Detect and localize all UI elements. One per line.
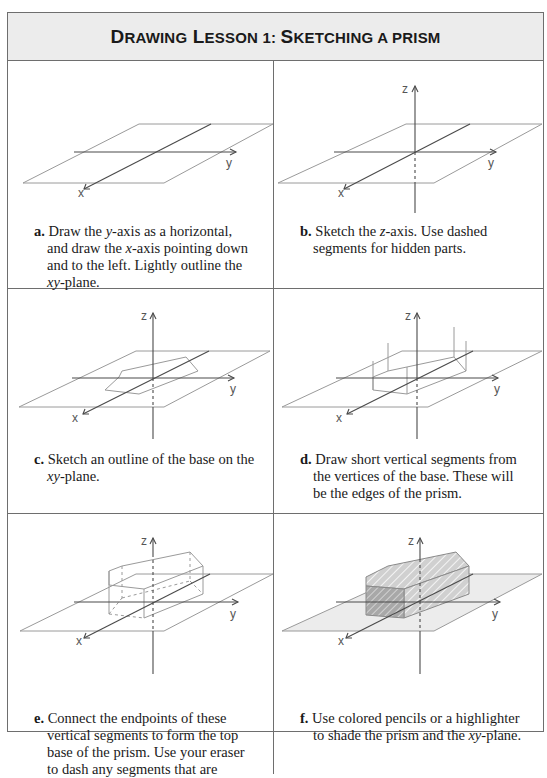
y-label: y: [488, 156, 494, 170]
steps-row-3: y x z e. Connect the endpoints of these …: [8, 514, 543, 774]
step-e-caption: e. Connect the endpoints of these vertic…: [34, 710, 255, 778]
y-label: y: [492, 607, 498, 621]
top-base-outline: [109, 552, 203, 589]
x-label: x: [336, 411, 342, 425]
base-outline: [373, 357, 466, 394]
x-label: x: [76, 634, 82, 648]
step-c-panel: y x z c. Sketch an outline of the base o…: [8, 289, 274, 513]
step-a-panel: y x a. Draw the y-axis as a horizontal, …: [8, 61, 274, 288]
z-label: z: [141, 534, 147, 548]
step-d-panel: y x z d. Draw short vertical segments fr…: [274, 289, 543, 513]
x-axis: [84, 574, 210, 638]
x-axis: [83, 351, 209, 414]
z-label: z: [405, 309, 411, 323]
step-b-caption: b. Sketch the z-axis. Use dashed segment…: [300, 223, 525, 257]
xy-plane-outline: [282, 351, 542, 407]
y-label: y: [226, 156, 232, 170]
lesson-sheet: DRAWING LESSON 1: SKETCHING A PRISM y: [7, 12, 544, 732]
x-axis: [84, 124, 211, 189]
z-label: z: [141, 309, 147, 323]
step-b-panel: y x z b. Sketch the z-axis. Use dashed s…: [274, 61, 543, 288]
z-label: z: [402, 82, 408, 96]
x-label: x: [338, 634, 344, 648]
y-label: y: [494, 382, 500, 396]
lesson-title: DRAWING LESSON 1: SKETCHING A PRISM: [110, 26, 440, 48]
x-axis: [344, 124, 470, 189]
steps-row-2: y x z c. Sketch an outline of the base o…: [8, 289, 543, 514]
step-a-caption: a. Draw the y-axis as a horizontal, and …: [34, 223, 255, 291]
y-label: y: [230, 382, 236, 396]
x-axis: [347, 351, 473, 414]
step-f-caption: f. Use colored pencils or a highlighter …: [300, 710, 525, 744]
steps-row-1: y x a. Draw the y-axis as a horizontal, …: [8, 61, 543, 289]
xy-plane-outline: [278, 124, 542, 183]
lesson-header: DRAWING LESSON 1: SKETCHING A PRISM: [8, 13, 543, 61]
step-e-panel: y x z e. Connect the endpoints of these …: [8, 514, 274, 774]
step-c-caption: c. Sketch an outline of the base on the …: [34, 451, 255, 485]
step-d-caption: d. Draw short vertical segments from the…: [300, 451, 525, 502]
y-label: y: [230, 607, 236, 621]
base-outline: [105, 357, 198, 394]
xy-plane-outline: [23, 124, 273, 183]
x-label: x: [72, 411, 78, 425]
x-label: x: [338, 186, 344, 200]
x-label: x: [78, 186, 84, 200]
z-label: z: [408, 534, 414, 548]
step-f-panel: y x z f. Use colored pencils or a highli…: [274, 514, 543, 774]
